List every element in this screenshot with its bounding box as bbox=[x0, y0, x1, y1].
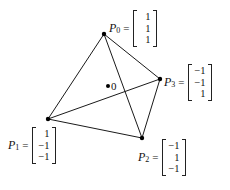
p0-z: 1 bbox=[139, 34, 151, 46]
p0-x: 1 bbox=[139, 11, 151, 23]
p2-name: P2 bbox=[138, 151, 149, 163]
label-p0: P0 = 1 1 1 bbox=[109, 10, 157, 47]
vertex-p1 bbox=[46, 117, 50, 121]
p3-z: 1 bbox=[194, 88, 206, 100]
equals-sign: = bbox=[123, 23, 129, 34]
equals-sign: = bbox=[178, 77, 184, 88]
p0-vector: 1 1 1 bbox=[133, 10, 157, 47]
origin-point bbox=[106, 84, 110, 88]
label-p2: P2 = −1 1 −1 bbox=[138, 139, 186, 176]
p2-z: −1 bbox=[168, 163, 180, 175]
edge-p2-p3 bbox=[142, 79, 160, 138]
p1-y: −1 bbox=[38, 140, 50, 152]
equals-sign: = bbox=[22, 140, 28, 151]
origin-label: 0 bbox=[111, 80, 117, 92]
equals-sign: = bbox=[152, 152, 158, 163]
p1-vector: 1 −1 −1 bbox=[32, 127, 56, 164]
edge-p1-p3 bbox=[48, 79, 160, 119]
p1-z: −1 bbox=[38, 151, 50, 163]
vertex-p0 bbox=[102, 32, 106, 36]
p2-y: 1 bbox=[168, 152, 180, 164]
label-p1: P1 = 1 −1 −1 bbox=[8, 127, 56, 164]
p3-name: P3 bbox=[164, 76, 175, 88]
p3-vector: −1 −1 1 bbox=[188, 64, 212, 101]
p0-name: P0 bbox=[109, 22, 120, 34]
p1-name: P1 bbox=[8, 139, 19, 151]
edge-p1-p2 bbox=[48, 119, 142, 138]
vertex-p3 bbox=[158, 77, 162, 81]
p3-y: −1 bbox=[194, 77, 206, 89]
p2-vector: −1 1 −1 bbox=[162, 139, 186, 176]
p1-x: 1 bbox=[38, 128, 50, 140]
edge-p0-p1 bbox=[48, 34, 104, 119]
p0-y: 1 bbox=[139, 23, 151, 35]
p2-x: −1 bbox=[168, 140, 180, 152]
label-p3: P3 = −1 −1 1 bbox=[164, 64, 212, 101]
p3-x: −1 bbox=[194, 65, 206, 77]
